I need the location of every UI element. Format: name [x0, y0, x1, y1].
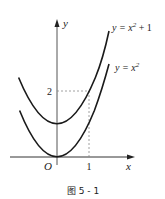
y-axis-label: y: [62, 17, 68, 29]
upper-curve-label: y = x2 + 1: [111, 21, 152, 33]
x-axis-label: x: [125, 160, 131, 172]
x-tick-1: 1: [87, 161, 92, 172]
figure-caption: 图 5 - 1: [67, 186, 99, 196]
x-axis: [10, 155, 135, 160]
origin-label: O: [44, 160, 52, 172]
y-tick-2: 2: [47, 86, 52, 97]
y-axis: [55, 19, 60, 165]
parabola-figure: y x O 1 2 y = x2 + 1 y = x2 图 5 - 1: [0, 0, 165, 199]
lower-curve-label: y = x2: [114, 61, 140, 73]
